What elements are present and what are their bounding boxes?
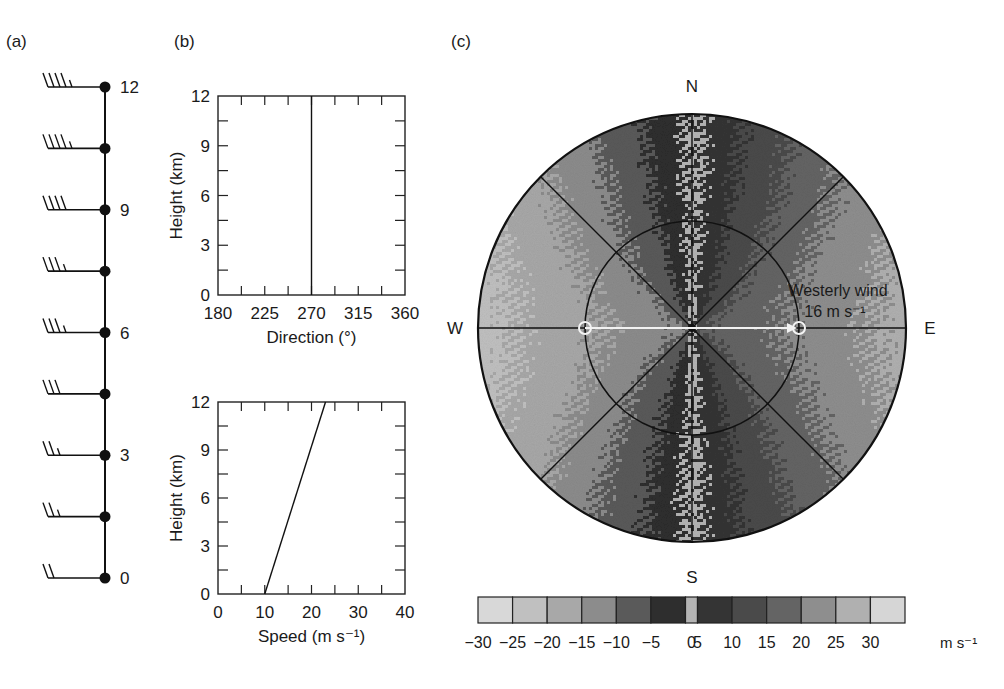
ppi-pixel xyxy=(883,411,886,414)
ppi-pixel xyxy=(763,240,766,243)
ppi-pixel xyxy=(709,471,712,474)
ppi-pixel xyxy=(580,351,583,354)
ppi-pixel xyxy=(868,417,871,420)
ppi-pixel xyxy=(619,465,622,468)
ppi-pixel xyxy=(541,288,544,291)
ppi-pixel xyxy=(646,453,649,456)
ppi-pixel xyxy=(661,183,664,186)
ppi-pixel xyxy=(583,291,586,294)
ppi-pixel xyxy=(733,531,736,534)
ppi-pixel xyxy=(805,150,808,153)
ppi-pixel xyxy=(661,126,664,129)
ppi-pixel xyxy=(676,345,679,348)
ppi-pixel xyxy=(562,393,565,396)
ppi-pixel xyxy=(727,435,730,438)
ppi-pixel xyxy=(679,387,682,390)
ppi-pixel xyxy=(697,504,700,507)
ppi-pixel xyxy=(493,315,496,318)
ppi-pixel xyxy=(541,279,544,282)
ppi-pixel xyxy=(673,231,676,234)
ppi-pixel xyxy=(826,333,829,336)
ppi-pixel xyxy=(619,324,622,327)
ppi-pixel xyxy=(613,441,616,444)
ppi-pixel xyxy=(634,246,637,249)
ppi-pixel xyxy=(757,444,760,447)
ppi-pixel xyxy=(631,306,634,309)
ppi-pixel xyxy=(709,357,712,360)
ppi-pixel xyxy=(679,354,682,357)
ppi-pixel xyxy=(604,525,607,528)
ppi-pixel xyxy=(640,429,643,432)
ppi-pixel xyxy=(712,516,715,519)
ppi-pixel xyxy=(610,411,613,414)
ppi-pixel xyxy=(532,444,535,447)
ppi-pixel xyxy=(721,519,724,522)
ppi-pixel xyxy=(706,147,709,150)
ppi-pixel xyxy=(550,237,553,240)
ppi-pixel xyxy=(712,258,715,261)
ppi-pixel xyxy=(697,408,700,411)
ppi-pixel xyxy=(619,225,622,228)
ppi-pixel xyxy=(721,138,724,141)
ppi-pixel xyxy=(823,423,826,426)
ppi-pixel xyxy=(505,372,508,375)
ppi-pixel xyxy=(556,345,559,348)
ppi-pixel xyxy=(703,240,706,243)
ppi-pixel xyxy=(733,345,736,348)
ppi-pixel xyxy=(529,432,532,435)
ppi-pixel xyxy=(778,483,781,486)
ppi-pixel xyxy=(817,222,820,225)
ppi-pixel xyxy=(607,441,610,444)
ppi-pixel xyxy=(802,342,805,345)
ppi-pixel xyxy=(631,465,634,468)
ppi-pixel xyxy=(703,198,706,201)
ppi-pixel xyxy=(559,282,562,285)
ppi-pixel xyxy=(556,408,559,411)
ppi-pixel xyxy=(892,300,895,303)
ppi-pixel xyxy=(784,486,787,489)
ppi-pixel xyxy=(823,375,826,378)
ppi-pixel xyxy=(583,231,586,234)
ppi-pixel xyxy=(493,402,496,405)
ppi-pixel xyxy=(673,225,676,228)
ppi-pixel xyxy=(571,435,574,438)
ppi-pixel xyxy=(739,363,742,366)
ppi-pixel xyxy=(628,483,631,486)
ppi-pixel xyxy=(697,153,700,156)
ppi-pixel xyxy=(562,270,565,273)
ppi-pixel xyxy=(505,276,508,279)
ppi-pixel xyxy=(673,255,676,258)
ppi-pixel xyxy=(682,141,685,144)
ppi-pixel xyxy=(676,375,679,378)
ppi-pixel xyxy=(835,342,838,345)
ppi-pixel xyxy=(781,261,784,264)
ppi-pixel xyxy=(508,423,511,426)
ppi-pixel xyxy=(736,453,739,456)
ppi-pixel xyxy=(658,147,661,150)
ppi-pixel xyxy=(685,156,688,159)
ppi-pixel xyxy=(646,150,649,153)
ppi-pixel xyxy=(787,498,790,501)
ppi-pixel xyxy=(574,204,577,207)
ppi-pixel xyxy=(655,279,658,282)
ppi-pixel xyxy=(811,375,814,378)
ppi-pixel xyxy=(841,411,844,414)
ppi-pixel xyxy=(871,321,874,324)
ppi-pixel xyxy=(700,381,703,384)
ppi-pixel xyxy=(493,336,496,339)
ppi-pixel xyxy=(667,267,670,270)
ppi-pixel xyxy=(667,132,670,135)
ppi-pixel xyxy=(679,381,682,384)
ppi-pixel xyxy=(823,429,826,432)
ppi-pixel xyxy=(526,255,529,258)
ppi-pixel xyxy=(775,252,778,255)
ppi-pixel xyxy=(703,234,706,237)
ppi-pixel xyxy=(712,315,715,318)
ppi-pixel xyxy=(529,318,532,321)
ppi-pixel xyxy=(577,357,580,360)
ppi-pixel xyxy=(790,216,793,219)
ppi-pixel xyxy=(592,486,595,489)
ppi-pixel xyxy=(784,183,787,186)
ppi-pixel xyxy=(712,369,715,372)
ppi-pixel xyxy=(787,456,790,459)
